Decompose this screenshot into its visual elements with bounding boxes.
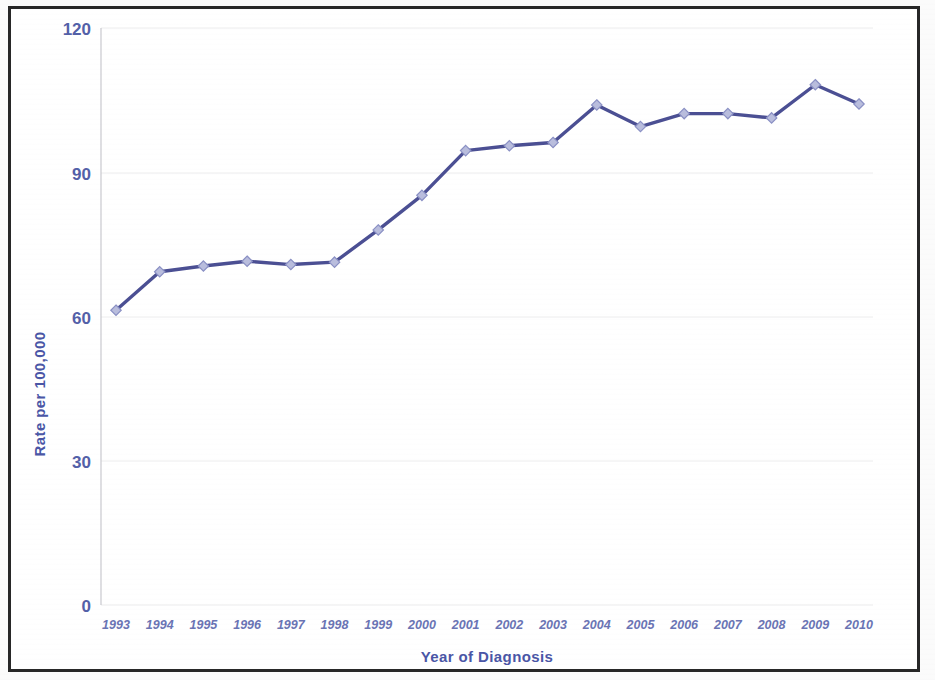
y-axis-title: Rate per 100,000: [31, 332, 48, 457]
data-point-marker: [723, 108, 733, 118]
data-point-marker: [504, 141, 514, 151]
data-point-marker: [286, 259, 296, 269]
x-tick-label-1997: 1997: [277, 618, 306, 632]
x-tick-label-2006: 2006: [669, 618, 699, 632]
y-tick-label-0: 0: [82, 597, 91, 616]
screenshot-root: 120 90 60 30 0 Rate per 100,000 19931994…: [0, 0, 935, 680]
x-tick-label-1999: 1999: [364, 618, 392, 632]
x-tick-label-2002: 2002: [494, 618, 523, 632]
x-tick-label-1996: 1996: [233, 618, 262, 632]
y-tick-label-30: 30: [72, 453, 91, 472]
data-point-marker: [198, 261, 208, 271]
line-chart: 120 90 60 30 0 Rate per 100,000 19931994…: [11, 9, 923, 675]
x-tick-label-1994: 1994: [146, 618, 174, 632]
data-series-line: [116, 85, 859, 311]
y-axis-tick-labels: 120 90 60 30 0: [63, 20, 91, 616]
y-tick-label-60: 60: [72, 309, 91, 328]
x-tick-label-2003: 2003: [538, 618, 567, 632]
figure-frame-border: 120 90 60 30 0 Rate per 100,000 19931994…: [8, 6, 920, 672]
x-tick-label-2008: 2008: [757, 618, 786, 632]
chart-svg: 120 90 60 30 0 Rate per 100,000 19931994…: [11, 9, 923, 675]
x-axis-title: Year of Diagnosis: [421, 648, 554, 665]
x-axis-tick-labels: 1993199419951996199719981999200020012002…: [102, 618, 873, 632]
x-tick-label-1995: 1995: [190, 618, 219, 632]
data-point-marker: [854, 99, 864, 109]
data-point-marker: [679, 108, 689, 118]
y-tick-label-90: 90: [72, 165, 91, 184]
x-tick-label-2010: 2010: [844, 618, 873, 632]
x-tick-label-1993: 1993: [102, 618, 130, 632]
data-point-marker: [242, 256, 252, 266]
x-tick-label-1998: 1998: [321, 618, 349, 632]
y-tick-label-120: 120: [63, 20, 91, 39]
gridlines: [101, 28, 873, 605]
x-tick-label-2007: 2007: [713, 618, 743, 632]
x-tick-label-2009: 2009: [800, 618, 829, 632]
x-tick-label-2005: 2005: [626, 618, 656, 632]
x-tick-label-2000: 2000: [407, 618, 436, 632]
x-tick-label-2004: 2004: [582, 618, 611, 632]
x-tick-label-2001: 2001: [451, 618, 480, 632]
